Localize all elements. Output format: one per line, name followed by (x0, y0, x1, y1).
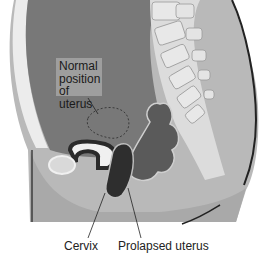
prolapsed-uterus-label: Prolapsed uterus (118, 240, 209, 253)
pelvis-cross-section-illustration (0, 0, 262, 255)
normal-position-label-line3: of uterus (59, 85, 99, 110)
pubic-bone (49, 156, 75, 174)
cervix-label: Cervix (64, 240, 98, 253)
normal-position-callout: Normal position of uterus (56, 58, 102, 96)
normal-position-label-line1: Normal (59, 60, 99, 73)
